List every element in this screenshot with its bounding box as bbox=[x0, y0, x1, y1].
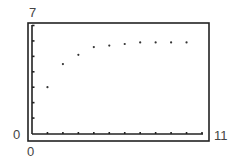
data-point bbox=[155, 41, 157, 43]
data-point bbox=[185, 41, 187, 43]
data-point bbox=[46, 86, 48, 88]
scatter-plot bbox=[0, 0, 236, 168]
data-point bbox=[62, 63, 64, 65]
data-point bbox=[77, 54, 79, 56]
axis-ticks bbox=[32, 26, 202, 135]
data-point bbox=[124, 43, 126, 45]
data-point bbox=[93, 46, 95, 48]
data-point bbox=[108, 44, 110, 46]
outer-frame bbox=[28, 23, 209, 141]
data-points bbox=[46, 41, 187, 88]
data-point bbox=[170, 41, 172, 43]
data-point bbox=[139, 41, 141, 43]
